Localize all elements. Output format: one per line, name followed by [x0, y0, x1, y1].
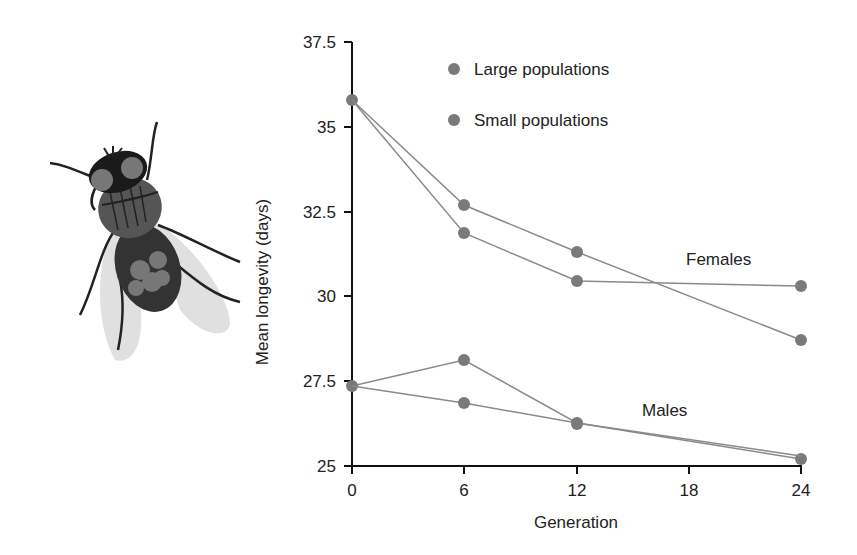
annotation-females: Females: [686, 250, 751, 269]
legend-label-large: Large populations: [474, 60, 609, 79]
y-tick-label: 25: [317, 457, 336, 476]
x-tick-label: 12: [568, 481, 587, 500]
series-males-small: [352, 386, 801, 456]
x-axis-title: Generation: [534, 513, 618, 532]
longevity-line-chart: 37.5 35 32.5 30 27.5 25 0 6 12 18 24 Gen…: [0, 0, 857, 555]
x-tick-label: 0: [347, 481, 356, 500]
x-ticks: 0 6 12 18 24: [347, 466, 810, 500]
legend-label-small: Small populations: [474, 111, 608, 130]
annotation-males: Males: [642, 401, 687, 420]
y-tick-label: 37.5: [303, 33, 336, 52]
y-ticks: 37.5 35 32.5 30 27.5 25: [303, 33, 352, 476]
series-females-large: [346, 94, 807, 346]
legend-marker-small: [448, 114, 460, 126]
legend: Large populations Small populations: [448, 60, 609, 130]
series-males-large: [346, 354, 807, 465]
legend-marker-large: [448, 63, 460, 75]
y-tick-label: 32.5: [303, 203, 336, 222]
y-tick-label: 30: [317, 287, 336, 306]
x-tick-label: 24: [792, 481, 811, 500]
y-tick-label: 35: [317, 118, 336, 137]
x-tick-label: 6: [459, 481, 468, 500]
x-tick-label: 18: [680, 481, 699, 500]
y-tick-label: 27.5: [303, 372, 336, 391]
y-axis-title: Mean longevity (days): [253, 199, 272, 365]
